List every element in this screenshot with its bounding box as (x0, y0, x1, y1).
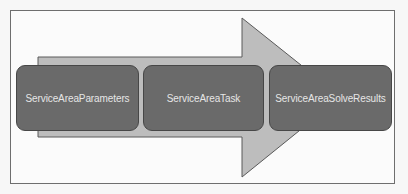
step-label: ServiceAreaParameters (25, 93, 129, 104)
step-box-service-area-solve-results: ServiceAreaSolveResults (269, 65, 392, 131)
step-label: ServiceAreaTask (167, 93, 241, 104)
step-box-service-area-task: ServiceAreaTask (143, 65, 264, 131)
step-label: ServiceAreaSolveResults (275, 93, 386, 104)
step-box-service-area-parameters: ServiceAreaParameters (16, 65, 139, 131)
